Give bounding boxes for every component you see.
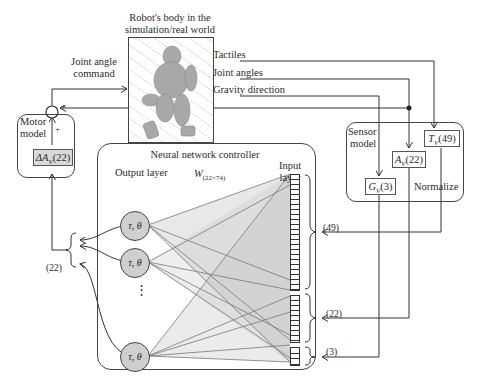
tactile-count: (49) xyxy=(438,133,456,144)
gravity-count: (3) xyxy=(380,181,392,192)
input-layer-angle-cells xyxy=(290,295,300,343)
motor-model-label-line2: model xyxy=(20,128,46,140)
weight-dims: (22×74) xyxy=(203,174,226,182)
controller-title: Neural network controller xyxy=(140,149,270,161)
command-label-line2: command xyxy=(62,68,126,80)
gravity-vector-box: GV(3) xyxy=(365,178,396,195)
delta-angle-count: (22) xyxy=(53,152,71,163)
output-group-count: (22) xyxy=(46,262,62,274)
output-layer-label: Output layer xyxy=(115,167,168,179)
angle-vector-box: AV(22) xyxy=(392,151,426,168)
tactile-vector-box: TV(49) xyxy=(424,130,460,147)
angle-input-count: (22) xyxy=(326,308,342,320)
delta-angle-symbol: ΔA xyxy=(36,152,49,163)
sensor-model-label-line1: Sensor xyxy=(348,126,377,138)
gravity-input-count: (3) xyxy=(326,346,337,358)
weight-matrix-label: W(22×74) xyxy=(194,168,225,184)
sensor-model-label-line2: model xyxy=(350,138,376,150)
input-layer-label-line1: Input xyxy=(275,160,305,172)
weight-symbol: W xyxy=(194,168,203,179)
sum-sign-bottom: + xyxy=(55,123,60,135)
joint-angles-label: Joint angles xyxy=(213,67,263,79)
output-node-last: τ, θ xyxy=(120,342,150,372)
tactiles-label: Tactiles xyxy=(213,49,246,61)
input-layer-tactile-cells xyxy=(290,174,300,291)
sum-sign-top: + xyxy=(61,100,66,112)
robot-figure-icon xyxy=(129,38,213,142)
robot-title-line1: Robot's body in the xyxy=(118,12,222,24)
gravity-symbol: G xyxy=(368,181,376,192)
output-node-1: τ, θ xyxy=(120,211,150,241)
delta-angle-box: ΔAV(22) xyxy=(33,149,73,166)
output-ellipsis: ⋮ xyxy=(135,283,148,297)
input-layer-gravity-cells xyxy=(290,347,300,366)
tactile-input-count: (49) xyxy=(323,222,339,234)
robot-body-panel xyxy=(128,37,214,143)
output-node-2: τ, θ xyxy=(120,248,150,278)
gravity-direction-label: Gravity direction xyxy=(213,84,285,96)
motor-model-label-line1: Motor xyxy=(20,116,46,128)
junction-dot xyxy=(407,106,412,111)
normalize-label: Normalize xyxy=(414,181,458,193)
command-label-line1: Joint angle xyxy=(62,56,126,68)
robot-title-line2: simulation/real world xyxy=(118,24,222,36)
angle-count: (22) xyxy=(406,154,424,165)
